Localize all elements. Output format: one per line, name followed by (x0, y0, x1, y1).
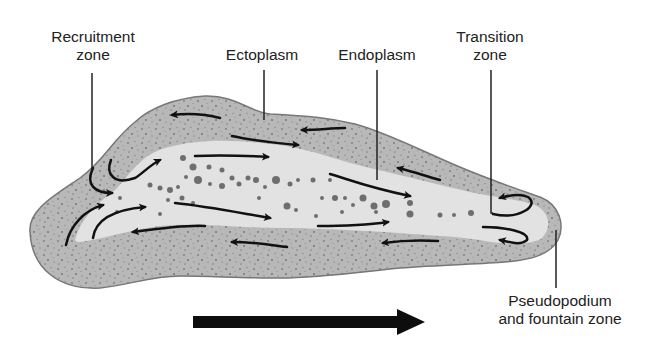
label-transition-zone-line2: zone (440, 46, 540, 64)
label-transition-zone-line1: Transition (440, 28, 540, 46)
direction-of-movement-arrow (193, 309, 425, 335)
label-ectoplasm-text: Ectoplasm (212, 46, 312, 64)
label-pseudopodium-line1: Pseudopodium (480, 292, 640, 310)
label-pseudopodium-line2: and fountain zone (480, 310, 640, 328)
label-endoplasm-text: Endoplasm (327, 46, 427, 64)
label-transition-zone: Transition zone (440, 28, 540, 64)
label-recruitment-zone-line1: Recruitment (38, 28, 148, 46)
label-pseudopodium: Pseudopodium and fountain zone (480, 292, 640, 328)
label-ectoplasm: Ectoplasm (212, 46, 312, 64)
label-recruitment-zone-line2: zone (38, 46, 148, 64)
label-recruitment-zone: Recruitment zone (38, 28, 148, 64)
label-endoplasm: Endoplasm (327, 46, 427, 64)
